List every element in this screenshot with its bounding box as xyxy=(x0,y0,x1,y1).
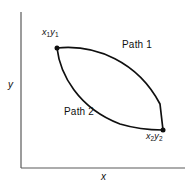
start-point-x-sub: 1 xyxy=(47,31,51,38)
path-diagram-figure: y x Path 1 Path 2 x1y1 x2y2 xyxy=(0,0,192,188)
start-point-x-var: x xyxy=(42,27,47,37)
x-axis-label: x xyxy=(101,172,106,182)
start-point-label: x1y1 xyxy=(42,28,59,37)
start-point-y-sub: 1 xyxy=(55,31,59,38)
end-point-x-sub: 2 xyxy=(151,135,155,142)
path-2-label: Path 2 xyxy=(64,107,94,117)
point-marker-start xyxy=(55,46,60,51)
end-point-x-var: x xyxy=(146,131,151,141)
path-2-curve xyxy=(57,48,163,130)
diagram-canvas xyxy=(0,0,192,188)
y-axis-label: y xyxy=(8,80,13,90)
path-1-label: Path 1 xyxy=(122,40,152,50)
end-point-label: x2y2 xyxy=(146,132,163,141)
end-point-y-sub: 2 xyxy=(159,135,163,142)
